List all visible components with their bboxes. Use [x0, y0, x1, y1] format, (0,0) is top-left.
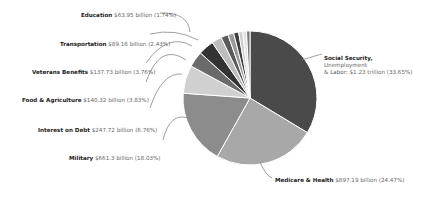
- label-food-agriculture: Food & Agriculture $140.32 billion (3.83…: [22, 97, 149, 104]
- label-veterans-benefits: Veterans Benefits $137.73 billion (3.76%…: [32, 69, 155, 76]
- label-military: Military $661.3 billion (18.03%): [69, 155, 161, 162]
- label-education: Education $63.95 billion (1.74%): [81, 12, 176, 19]
- label-social-security: Social Security, Unemployment & Labor: $…: [324, 55, 412, 76]
- pie-slices: [183, 31, 317, 165]
- label-interest-on-debt: Interest on Debt $247.72 billion (6.76%): [38, 127, 157, 134]
- label-transportation: Transportation $89.16 billion (2.43%): [60, 41, 170, 48]
- label-medicare-health: Medicare & Health $897.19 billion (24.47…: [275, 177, 404, 184]
